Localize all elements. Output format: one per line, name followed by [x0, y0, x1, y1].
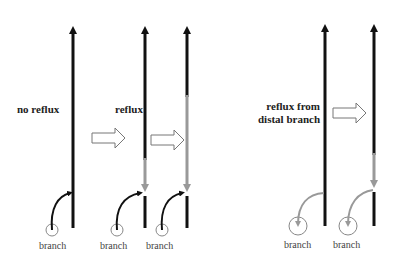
hollow-arrow-2 [151, 130, 184, 150]
label-no-reflux: no reflux [17, 103, 59, 115]
branch-label-1: branch [39, 240, 66, 251]
label-reflux-from-distal-line2: distal branch [258, 113, 320, 126]
vessel-reflux-extended [156, 30, 187, 236]
label-reflux-from-distal: reflux from distal branch [258, 100, 320, 126]
vessel-distal-branch [289, 28, 325, 235]
branch-label-3: branch [146, 240, 173, 251]
diagram-canvas [0, 0, 399, 265]
branch-label-2: branch [100, 240, 127, 251]
label-reflux: reflux [115, 103, 143, 115]
vessel-no-reflux [46, 30, 73, 236]
branch-label-4: branch [284, 239, 311, 250]
vessel-distal-branch-reflux [339, 28, 374, 235]
hollow-arrow-3 [333, 103, 366, 123]
hollow-arrow-1 [92, 128, 125, 148]
label-reflux-from-distal-line1: reflux from [258, 100, 320, 113]
branch-label-5: branch [333, 239, 360, 250]
